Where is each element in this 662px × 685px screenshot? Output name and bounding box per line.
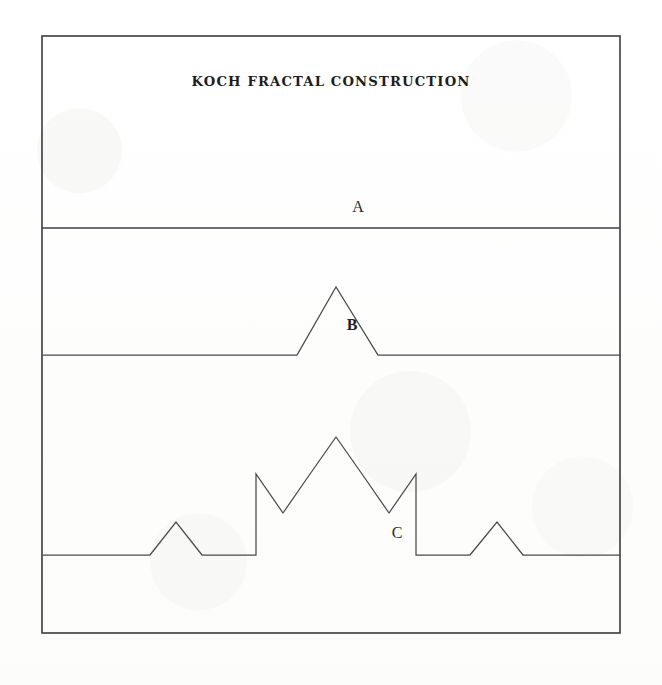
koch-stage-c-curve — [42, 437, 620, 555]
figure-frame — [42, 36, 620, 633]
stage-label-b: B — [347, 316, 358, 333]
stage-label-c: C — [392, 524, 403, 541]
figure-title: KOCH FRACTAL CONSTRUCTION — [192, 74, 471, 89]
stage-label-a: A — [352, 198, 364, 215]
koch-figure-svg: KOCH FRACTAL CONSTRUCTION A B C — [0, 0, 662, 685]
koch-stage-b-curve — [42, 287, 620, 355]
koch-figure-root: KOCH FRACTAL CONSTRUCTION A B C — [0, 0, 662, 685]
